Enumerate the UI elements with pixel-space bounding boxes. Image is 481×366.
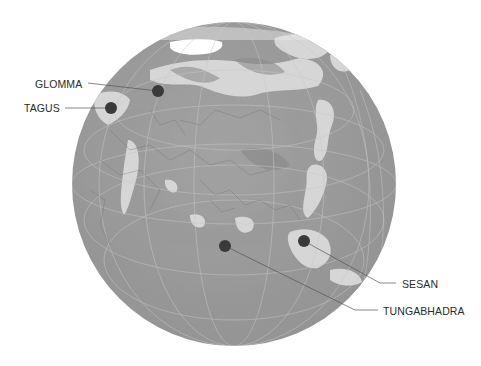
- label-sesan: SESAN: [402, 278, 438, 290]
- marker-glomma[interactable]: [152, 85, 164, 97]
- marker-sesan[interactable]: [298, 235, 310, 247]
- label-tungabhadra: TUNGABHADRA: [383, 305, 465, 317]
- label-glomma: GLOMMA: [35, 78, 82, 90]
- marker-tungabhadra[interactable]: [219, 240, 231, 252]
- globe: [72, 22, 396, 346]
- marker-tagus[interactable]: [105, 102, 117, 114]
- label-tagus: TAGUS: [24, 102, 60, 114]
